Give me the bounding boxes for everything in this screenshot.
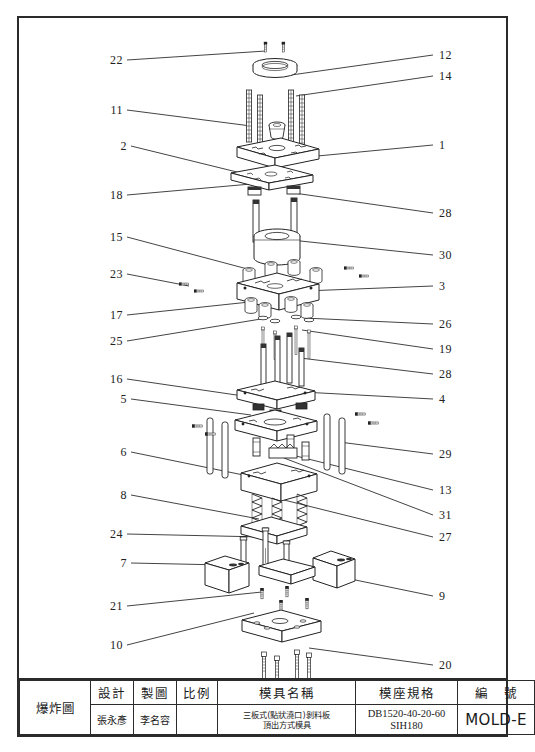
part-22-locating-screws (264, 42, 285, 52)
callout-number-17: 17 (110, 309, 123, 321)
callout-number-27: 27 (439, 531, 452, 543)
value-drafter: 李名容 (134, 705, 177, 735)
callout-number-28: 28 (439, 368, 452, 380)
callout-number-29: 29 (439, 448, 452, 460)
part-1-top-clamp-plate (237, 138, 319, 168)
callout-number-8: 8 (121, 489, 128, 501)
mold-name-line2: 頂出方式模具 (218, 720, 355, 730)
header-designer: 設計 (91, 681, 134, 705)
part-2-stripper-plate (231, 165, 313, 190)
header-mold-base-spec: 模座規格 (356, 681, 458, 705)
callout-number-9: 9 (439, 590, 446, 602)
callout-number-3: 3 (439, 280, 446, 292)
callout-number-31: 31 (439, 509, 452, 521)
callout-number-19: 19 (439, 343, 452, 355)
value-scale (177, 705, 218, 735)
value-designer: 張永彥 (91, 705, 134, 735)
callout-number-15: 15 (110, 231, 123, 243)
value-drawing-number: MOLD-E (458, 705, 535, 735)
callout-number-30: 30 (439, 249, 452, 261)
mold-name-line1: 三板式(點狀澆口)剝料板 (218, 710, 355, 720)
callout-number-1: 1 (439, 139, 446, 151)
header-drawing-number: 編 號 (458, 681, 535, 705)
mold-base-spec-line2: SIH180 (356, 720, 457, 732)
callout-number-16: 16 (110, 373, 123, 385)
drawing-frame: 221121815231725165682472110 121412830326… (17, 16, 508, 737)
callout-number-25: 25 (110, 335, 123, 347)
callout-number-2: 2 (121, 140, 128, 152)
callout-number-24: 24 (110, 528, 123, 540)
header-mold-name: 模具名稱 (218, 681, 356, 705)
part-28-support-pins-lower (261, 333, 304, 386)
callout-number-22: 22 (110, 54, 123, 66)
callout-number-10: 10 (110, 639, 123, 651)
callout-number-11: 11 (110, 104, 123, 116)
callout-number-4: 4 (439, 393, 446, 405)
part-12-locating-ring (253, 59, 297, 78)
callout-number-26: 26 (439, 318, 452, 330)
callout-number-21: 21 (110, 600, 123, 612)
exploded-view-canvas (19, 18, 510, 739)
mold-base-spec-line1: DB1520-40-20-60 (356, 708, 457, 720)
callout-number-12: 12 (439, 49, 452, 61)
value-mold-base-spec: DB1520-40-20-60 SIH180 (356, 705, 458, 735)
callout-number-18: 18 (110, 189, 123, 201)
part-6-ejector-plate (241, 463, 317, 501)
part-10-bottom-clamp-plate (242, 610, 321, 642)
callout-number-20: 20 (439, 659, 452, 671)
title-block: 爆炸圖 設計 製圖 比例 模具名稱 模座規格 編 號 張永彥 李名容 三板式(點… (17, 678, 508, 737)
callout-number-28: 28 (439, 207, 452, 219)
callout-number-5: 5 (121, 393, 128, 405)
callout-number-23: 23 (110, 268, 123, 280)
part-21-short-screws (260, 586, 309, 611)
callout-number-14: 14 (439, 70, 452, 82)
view-type-label: 爆炸圖 (20, 681, 91, 735)
value-mold-name: 三板式(點狀澆口)剝料板 頂出方式模具 (218, 705, 356, 735)
part-11-sprue-bush (269, 122, 285, 139)
header-scale: 比例 (177, 681, 218, 705)
callout-number-7: 7 (121, 557, 128, 569)
callout-number-6: 6 (121, 446, 128, 458)
callout-number-13: 13 (439, 484, 452, 496)
header-drafter: 製圖 (134, 681, 177, 705)
